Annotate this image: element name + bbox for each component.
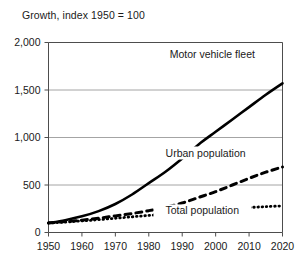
series-label: Total population bbox=[165, 204, 239, 216]
chart-figure: Growth, index 1950 = 100 05001,0001,5002… bbox=[0, 0, 304, 270]
series-label: Urban population bbox=[166, 147, 246, 159]
x-tick-label: 1960 bbox=[70, 240, 94, 252]
y-tick-label: 1,000 bbox=[14, 131, 40, 143]
x-tick-label: 2000 bbox=[204, 240, 228, 252]
series-label: Motor vehicle fleet bbox=[170, 48, 255, 60]
gridlines bbox=[49, 43, 283, 186]
x-tick-label: 2010 bbox=[237, 240, 261, 252]
y-tick-labels: 05001,0001,5002,000 bbox=[14, 36, 40, 238]
x-tick-label: 1950 bbox=[37, 240, 61, 252]
x-tick-label: 2020 bbox=[271, 240, 295, 252]
x-tick-labels: 19501960197019801990200020102020 bbox=[37, 240, 295, 252]
y-tick-label: 0 bbox=[35, 226, 41, 238]
y-tick-label: 500 bbox=[23, 179, 41, 191]
x-tick-label: 1990 bbox=[171, 240, 195, 252]
line-chart-plot: 05001,0001,5002,000 19501960197019801990… bbox=[0, 0, 304, 270]
x-tick-label: 1980 bbox=[137, 240, 161, 252]
x-tick-label: 1970 bbox=[104, 240, 128, 252]
y-tick-label: 2,000 bbox=[14, 36, 40, 48]
y-tick-label: 1,500 bbox=[14, 84, 40, 96]
